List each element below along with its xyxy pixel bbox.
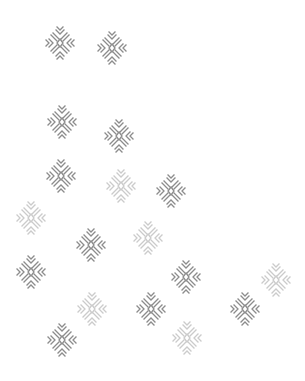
snowflake-icon bbox=[97, 31, 127, 65]
snowflake-icon bbox=[172, 321, 202, 355]
snowflake-icon bbox=[261, 263, 291, 297]
snowflake-icon bbox=[77, 292, 107, 326]
snowflake-icon bbox=[230, 292, 260, 326]
snowflake-icon bbox=[16, 255, 46, 289]
snowflake-icon bbox=[76, 228, 106, 262]
snowflake-icon bbox=[16, 201, 46, 235]
snowflake-icon bbox=[133, 221, 163, 255]
snowflake-icon bbox=[47, 105, 77, 139]
snowflake-icon bbox=[106, 169, 136, 203]
snowflake-icon bbox=[104, 119, 134, 153]
snowflake-icon bbox=[45, 26, 75, 60]
snowflake-icon bbox=[46, 159, 76, 193]
snowflake-icon bbox=[136, 292, 166, 326]
snowflake-icon bbox=[47, 323, 77, 357]
snowflake-icon bbox=[156, 174, 186, 208]
snowflake-icon bbox=[171, 260, 201, 294]
